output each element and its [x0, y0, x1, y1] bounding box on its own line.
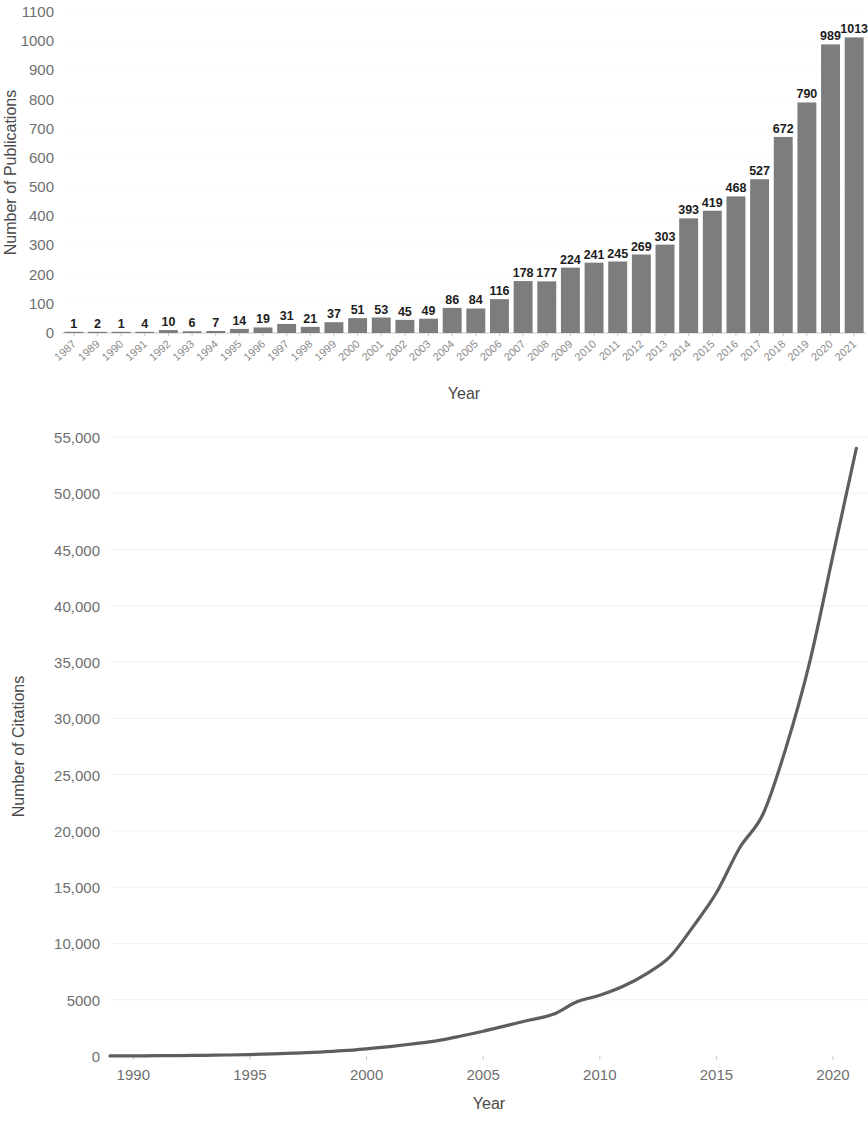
bar-x-tick-label: 2012 — [619, 338, 645, 363]
bar-y-tick-label: 0 — [46, 324, 54, 341]
bar-x-tick-label: 2007 — [501, 338, 527, 363]
bar-group: 224 — [560, 253, 581, 336]
bar-group: 19 — [254, 312, 273, 336]
bar-y-tick-label: 400 — [29, 207, 54, 224]
bar-rect — [514, 281, 533, 333]
bar-x-tick-label: 2013 — [643, 338, 669, 363]
bar-y-tick-label: 1100 — [22, 3, 54, 20]
bar-value-label: 1013 — [840, 22, 868, 36]
bar-value-label: 672 — [773, 122, 794, 136]
bar-group: 116 — [489, 284, 509, 336]
bar-value-label: 989 — [820, 29, 841, 43]
bar-group: 303 — [655, 230, 676, 336]
bar-rect — [679, 218, 698, 333]
bar-value-label: 245 — [607, 247, 628, 261]
bar-value-label: 1 — [118, 317, 125, 331]
bar-rect — [64, 332, 83, 333]
line-y-tick-label: 30,000 — [54, 710, 100, 727]
bar-x-tick-label: 2020 — [809, 338, 835, 363]
bar-x-tick-label: 2008 — [525, 338, 551, 363]
bar-group: 37 — [324, 307, 343, 336]
bar-value-label: 45 — [398, 305, 412, 319]
bar-group: 14 — [230, 314, 249, 336]
bar-x-tick-label: 2002 — [383, 338, 409, 363]
bar-value-label: 84 — [469, 293, 483, 307]
bar-x-tick-label: 1991 — [123, 338, 149, 363]
publications-bar-chart-panel: 010020030040050060070080090010001100Numb… — [0, 0, 868, 415]
bar-x-tick-label: 2010 — [572, 338, 598, 363]
bar-value-label: 224 — [560, 253, 581, 267]
bar-group: 53 — [372, 303, 391, 336]
bar-y-tick-label: 600 — [29, 149, 54, 166]
bar-value-label: 10 — [161, 315, 175, 329]
bar-rect — [585, 263, 604, 333]
bar-x-tick-label: 1999 — [312, 338, 338, 363]
bar-group: 790 — [796, 87, 817, 336]
bar-group: 672 — [773, 122, 794, 336]
bar-rect — [230, 329, 249, 333]
bar-x-tick-label: 1994 — [194, 338, 220, 363]
bar-x-tick-label: 2003 — [407, 338, 433, 363]
bar-y-tick-label: 700 — [29, 120, 54, 137]
bar-value-label: 468 — [726, 181, 747, 195]
bar-y-tick-label: 900 — [29, 61, 54, 78]
bar-value-label: 51 — [351, 303, 365, 317]
bar-group: 10 — [159, 315, 178, 336]
bar-value-label: 269 — [631, 240, 652, 254]
bar-value-label: 419 — [702, 196, 723, 210]
bar-rect — [348, 318, 367, 333]
bar-rect — [112, 332, 131, 333]
bar-value-label: 86 — [445, 293, 459, 307]
line-y-tick-label: 35,000 — [54, 654, 100, 671]
bar-rect — [206, 331, 225, 333]
bar-group: 7 — [206, 316, 225, 336]
bar-rect — [703, 211, 722, 333]
line-x-tick-label: 2000 — [350, 1066, 383, 1083]
bar-group: 51 — [348, 303, 367, 336]
bar-group: 49 — [419, 304, 438, 336]
bar-rect — [774, 137, 793, 333]
bar-x-tick-label: 2005 — [454, 338, 480, 363]
bar-x-tick-label: 2014 — [667, 338, 693, 363]
bar-value-label: 303 — [655, 230, 676, 244]
bar-rect — [419, 319, 438, 333]
bar-x-tick-label: 1992 — [147, 338, 173, 363]
bar-rect — [372, 318, 391, 333]
bar-group: 31 — [277, 309, 296, 336]
bar-x-tick-label: 1987 — [52, 338, 78, 363]
line-y-tick-label: 10,000 — [54, 935, 100, 952]
bar-group: 245 — [607, 247, 628, 337]
bar-group: 393 — [678, 203, 699, 336]
bar-x-tick-label: 2016 — [714, 338, 740, 363]
line-x-tick-label: 2005 — [467, 1066, 500, 1083]
bar-x-tick-label: 1990 — [99, 338, 125, 363]
bar-y-tick-label: 1000 — [21, 32, 54, 49]
bar-y-tick-label: 100 — [29, 295, 54, 312]
bar-x-tick-label: 2021 — [832, 338, 858, 363]
bar-group: 989 — [820, 29, 841, 336]
bar-rect — [159, 330, 178, 333]
bar-value-label: 527 — [749, 164, 770, 178]
bar-value-label: 14 — [232, 314, 246, 328]
line-x-tick-label: 2010 — [583, 1066, 616, 1083]
bar-value-label: 393 — [678, 203, 699, 217]
bar-rect — [537, 281, 556, 333]
bar-rect — [301, 327, 320, 333]
bar-x-tick-label: 2009 — [549, 338, 575, 363]
bar-rect — [656, 245, 675, 333]
bar-rect — [183, 331, 202, 333]
bar-x-tick-label: 2001 — [359, 338, 385, 363]
bar-group: 86 — [443, 293, 462, 336]
bar-group: 269 — [631, 240, 652, 337]
bar-value-label: 53 — [374, 303, 388, 317]
line-x-axis-title: Year — [473, 1095, 506, 1112]
line-x-tick-label: 1995 — [233, 1066, 266, 1083]
bar-rect — [561, 268, 580, 333]
bar-group: 1013 — [840, 22, 868, 336]
bar-y-tick-label: 200 — [29, 266, 54, 283]
bar-value-label: 4 — [141, 317, 148, 331]
line-y-tick-label: 5000 — [67, 992, 100, 1009]
bar-rect — [797, 102, 816, 333]
publications-bar-chart: 010020030040050060070080090010001100Numb… — [0, 0, 868, 415]
bar-x-tick-label: 1993 — [170, 338, 196, 363]
